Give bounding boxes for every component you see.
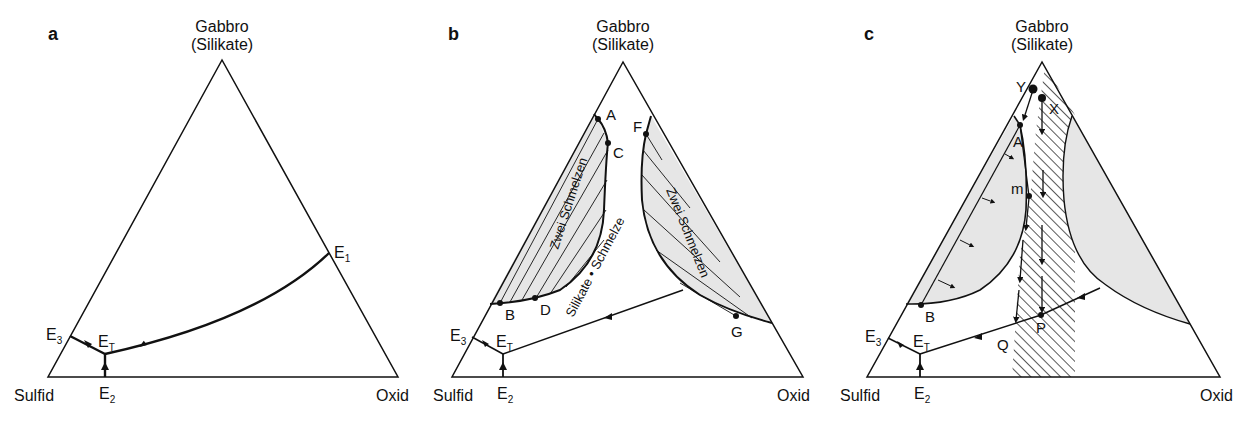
apex-label-gabbro: Gabbro [1015,18,1068,35]
panel-a-label: a [48,24,59,44]
point-label-e3: E3 [865,328,882,348]
point-label-et: ET [496,333,513,353]
point-label-e2: E2 [914,385,931,405]
point-label-f: F [633,118,642,135]
arrow-icon [604,313,612,320]
point-label-e2: E2 [497,385,514,405]
point-label-c: C [613,144,624,161]
point-label-e3: E3 [46,326,63,346]
ternary-diagram-figure: a Gabbro (Silikate) Sulfid Oxid E1 E3 ET… [0,0,1258,428]
point-label-a: A [606,106,616,123]
point-label-d: D [540,301,551,318]
panel-a: a Gabbro (Silikate) Sulfid Oxid E1 E3 ET… [14,18,409,405]
apex-label-silikate: (Silikate) [1011,36,1073,53]
vertex-label-sulfid: Sulfid [14,387,54,404]
vertex-label-oxid: Oxid [777,387,810,404]
point-label-y: Y [1016,78,1026,95]
apex-label-gabbro: Gabbro [596,18,649,35]
arrow-icon [499,362,507,370]
apex-label-silikate: (Silikate) [592,36,654,53]
point-label-et: ET [913,333,930,353]
two-liquid-field-left [906,116,1026,304]
point-label-e2: E2 [99,385,116,405]
vertex-label-oxid: Oxid [376,387,409,404]
point-label-m: m [1011,180,1024,197]
panel-b: b Gabbro (Silikate) [433,18,810,405]
panel-c-label: c [864,24,874,44]
point-label-g: G [731,323,743,340]
apex-label-silikate: (Silikate) [191,36,253,53]
vertex-label-oxid: Oxid [1200,387,1233,404]
point-label-p: P [1036,319,1046,336]
two-liquid-field-right [642,116,773,323]
point-label-a: A [1013,133,1023,150]
vertex-label-sulfid: Sulfid [433,387,473,404]
panel-b-label: b [448,24,459,44]
ternary-triangle [48,60,398,377]
arrow-icon [897,341,904,348]
ternary-triangle [452,62,803,377]
point-label-b: B [925,308,935,325]
point-label-x: X [1049,100,1059,117]
panel-c: c Gabbro (Silikate) [840,18,1233,405]
vertex-label-sulfid: Sulfid [840,387,880,404]
point-label-b: B [505,306,515,323]
point-label-e3: E3 [450,327,467,347]
cotectic-line-e1-et [105,253,329,354]
point-label-e1: E1 [334,244,351,264]
point-label-q: Q [997,336,1009,353]
apex-label-gabbro: Gabbro [195,18,248,35]
arrow-icon [101,362,109,370]
two-liquid-field-right [1063,116,1190,324]
arrow-icon [916,362,924,370]
arrow-icon [1077,293,1085,300]
point-label-et: ET [98,333,115,353]
